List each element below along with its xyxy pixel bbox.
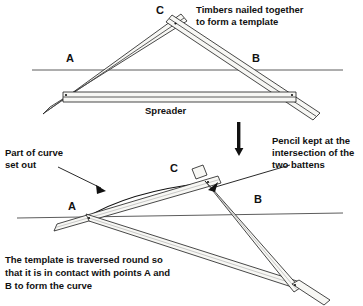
label-part-of-curve-line1: Part of curve	[5, 147, 63, 158]
label-point-b-bottom: B	[254, 193, 262, 205]
label-point-a-bottom: A	[68, 200, 76, 212]
diagram-canvas: A B C Timbers nailed together to form a …	[0, 0, 363, 306]
nail-apex-bottom	[207, 181, 209, 183]
label-pencil-line1: Pencil kept at the	[272, 135, 350, 146]
label-point-a-top: A	[66, 52, 74, 64]
nail-a-bottom	[88, 217, 90, 219]
down-arrow	[235, 122, 244, 156]
label-pencil-line3: two battens	[272, 159, 325, 170]
label-pencil-line2: intersection of the	[272, 147, 354, 158]
batten-left-grain	[56, 180, 220, 228]
nail-spreader-left	[65, 94, 67, 96]
nail-apex	[174, 22, 176, 24]
label-timbers-nailed-line1: Timbers nailed together	[196, 4, 304, 15]
label-caption-line2: that it is in contact with points A and	[5, 267, 170, 278]
down-arrow-shaft	[237, 122, 240, 150]
bottom-ground-line	[17, 213, 343, 218]
nail-corner-bottom	[294, 284, 296, 286]
pencil-block	[192, 165, 207, 179]
down-arrow-head	[235, 148, 244, 156]
label-caption-line1: The template is traversed round so	[5, 254, 163, 265]
label-timbers-nailed-line2: to form a template	[196, 16, 278, 27]
top-diagram: A B C Timbers nailed together to form a …	[32, 4, 343, 120]
nail-spreader-right	[291, 94, 293, 96]
label-point-c-top: C	[156, 4, 164, 16]
label-point-c-bottom: C	[170, 162, 178, 174]
bottom-diagram: A B C Part of curve set out Pencil kept …	[5, 135, 354, 305]
label-spreader: Spreader	[145, 105, 186, 116]
label-part-of-curve-line2: set out	[5, 159, 37, 170]
leader-part-of-curve-head	[96, 185, 106, 194]
label-caption-line3: B to form the curve	[5, 280, 92, 291]
batten-tail	[292, 280, 330, 305]
leader-part-of-curve	[58, 167, 101, 188]
label-point-b-top: B	[252, 52, 260, 64]
